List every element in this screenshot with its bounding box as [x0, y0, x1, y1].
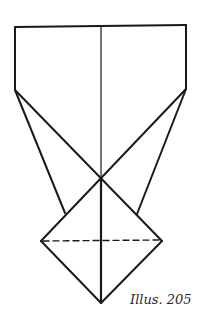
- diagonal-right-to-left: [41, 89, 186, 241]
- fold-diagram: [0, 0, 207, 324]
- right-outer-line: [137, 89, 186, 214]
- diamond-lower-left: [41, 241, 101, 303]
- left-outer-line: [15, 90, 65, 213]
- diagonal-left-to-right: [15, 90, 162, 241]
- illustration-caption: Illus. 205: [130, 292, 192, 307]
